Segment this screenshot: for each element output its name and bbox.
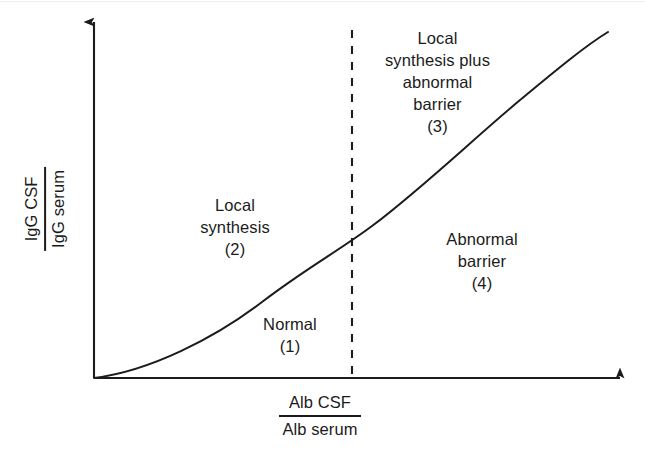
region-local-synthesis: Local synthesis (2) <box>160 194 310 260</box>
y-axis-numerator: IgG CSF <box>21 167 43 251</box>
x-axis-fraction-rule <box>279 415 360 417</box>
y-axis-denominator: IgG serum <box>47 167 69 251</box>
y-axis-fraction-rule <box>44 167 46 251</box>
figure-canvas: Local synthesis plus abnormal barrier (3… <box>0 0 645 456</box>
y-axis-fraction: IgG CSF IgG serum <box>21 167 69 251</box>
x-axis-label: Alb CSF Alb serum <box>255 392 385 440</box>
x-axis-numerator: Alb CSF <box>279 392 360 414</box>
x-axis-fraction: Alb CSF Alb serum <box>279 392 360 440</box>
x-axis-denominator: Alb serum <box>279 418 360 440</box>
region-local-synthesis-plus-abnormal-barrier: Local synthesis plus abnormal barrier (3… <box>355 27 520 138</box>
region-normal: Normal (1) <box>215 313 365 357</box>
y-axis-label: IgG CSF IgG serum <box>21 144 69 274</box>
region-abnormal-barrier: Abnormal barrier (4) <box>398 228 566 294</box>
